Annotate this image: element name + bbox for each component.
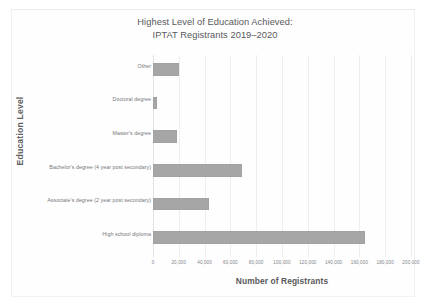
category-label: Bachelor's degree (4 year post secondary… [49,164,151,170]
x-tick-label: 40,000 [197,260,212,265]
bar [153,231,365,244]
bar-row: Master's degree [153,122,411,156]
category-label: Associate's degree (2 year post secondar… [47,197,151,203]
x-axis-title: Number of Registrants [153,276,411,286]
x-tick-label: 100,000 [273,260,290,265]
bar-row: Associate's degree (2 year post secondar… [153,190,411,224]
x-tick-label: 200,000 [402,260,419,265]
bar [153,198,209,211]
bar-row: High school diploma [153,223,411,257]
x-tick-label: 80,000 [249,260,264,265]
bar [153,97,157,110]
category-label: High school diploma [102,231,151,237]
x-tick-label: 180,000 [377,260,394,265]
x-tick-label: 160,000 [351,260,368,265]
gridline [411,55,412,257]
x-tick-label: 60,000 [223,260,238,265]
bar-row: Bachelor's degree (4 year post secondary… [153,156,411,190]
bar [153,130,177,143]
x-tick-label: 140,000 [325,260,342,265]
y-axis-title: Education Level [15,95,25,167]
category-label: Other [138,63,152,69]
bar-chart: Highest Level of Education Achieved: IPT… [0,0,426,305]
category-label: Doctoral degree [113,96,151,102]
bar [153,63,179,76]
x-tick-label: 120,000 [299,260,316,265]
x-tick-label: 20,000 [171,260,186,265]
chart-title: Highest Level of Education Achieved: IPT… [60,16,370,41]
x-tick-label: 0 [152,260,155,265]
bar-row: Doctoral degree [153,89,411,123]
x-axis-tick-labels: 020,00040,00060,00080,000100,000120,0001… [153,260,411,270]
bar-row: Other [153,55,411,89]
plot-area: OtherDoctoral degreeMaster's degreeBache… [153,55,411,257]
bar [153,164,242,177]
category-label: Master's degree [112,130,151,136]
